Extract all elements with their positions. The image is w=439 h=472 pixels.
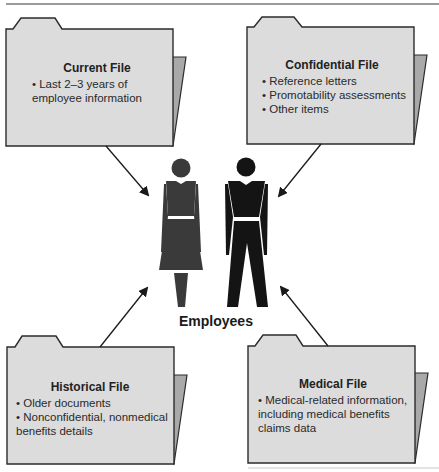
- folder-item: • Other items: [262, 102, 402, 116]
- folder-item: benefits details: [16, 424, 164, 438]
- folder-item: including medical benefits: [258, 407, 408, 421]
- folder-item: • Promotability assessments: [262, 88, 402, 102]
- woman-figure-icon: [159, 159, 203, 308]
- folder-item: • Nonconfidential, nonmedical: [16, 410, 164, 424]
- folder-historical: Historical File • Older documents • Nonc…: [16, 380, 164, 438]
- folder-title: Confidential File: [262, 58, 402, 72]
- folder-item: • Last 2–3 years of: [32, 77, 162, 91]
- folder-title: Current File: [32, 61, 162, 75]
- employees-label: Employees: [179, 313, 253, 329]
- folder-title: Medical File: [258, 377, 408, 391]
- folder-item: claims data: [258, 421, 408, 435]
- folder-item: employee information: [32, 91, 162, 105]
- folder-current: Current File • Last 2–3 years of employe…: [32, 61, 162, 105]
- man-figure-icon: [225, 158, 268, 308]
- folder-confidential: Confidential File • Reference letters • …: [262, 58, 402, 116]
- folder-item: • Older documents: [16, 396, 164, 410]
- folder-item: • Reference letters: [262, 74, 402, 88]
- folder-item: • Medical-related information,: [258, 393, 408, 407]
- folder-medical: Medical File • Medical-related informati…: [258, 377, 408, 435]
- arrow-icon: [100, 288, 147, 347]
- arrow-icon: [106, 146, 148, 195]
- arrow-icon: [279, 144, 321, 196]
- folder-title: Historical File: [16, 380, 164, 394]
